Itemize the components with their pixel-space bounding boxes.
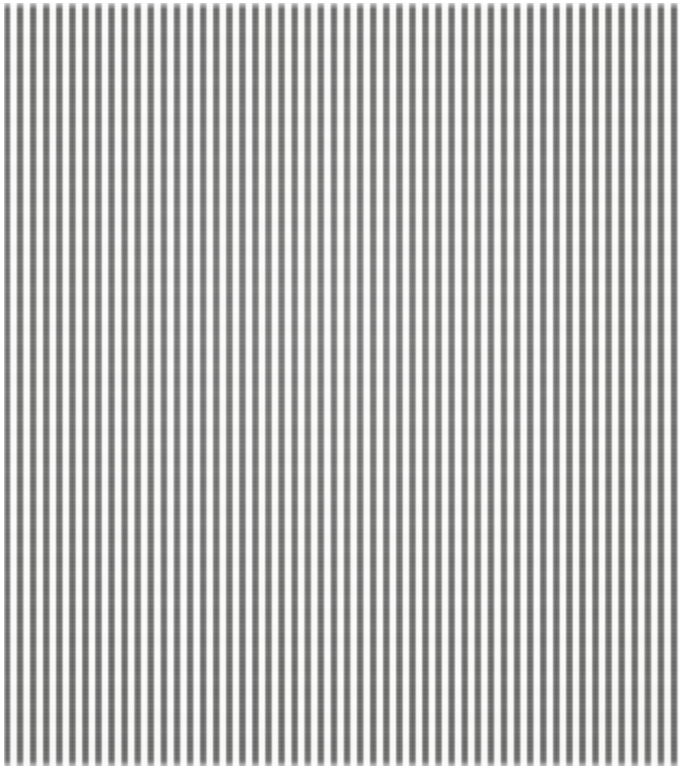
slub-weave-texture [0, 0, 689, 770]
fabric-swatch [0, 0, 689, 770]
